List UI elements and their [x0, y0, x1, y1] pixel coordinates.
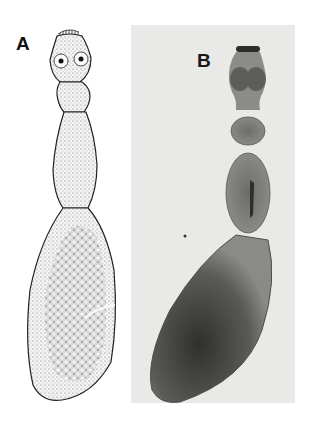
neck-segment	[57, 82, 90, 112]
panel-a-label: A	[16, 33, 30, 55]
immature-segment	[53, 112, 97, 208]
panel-b-photo	[150, 46, 271, 403]
panel-a-drawing	[28, 30, 116, 401]
panel-b-label: B	[197, 50, 211, 72]
figure-illustration	[0, 0, 310, 430]
